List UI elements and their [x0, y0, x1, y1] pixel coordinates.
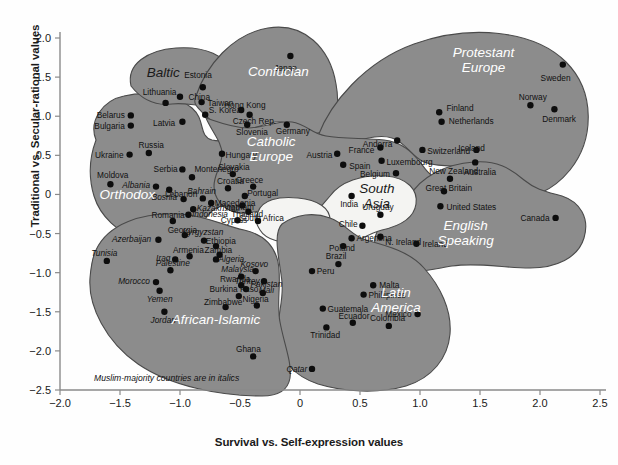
country-dot	[386, 323, 392, 329]
country-label: Great Britain	[426, 183, 473, 193]
country-label: Yemen	[147, 294, 173, 304]
cultural-map-chart: 2.01.51.00.50−0.5−1.0−1.5−2.0−2.5−2.0−1.…	[0, 0, 618, 465]
country-label: Argentina	[356, 233, 392, 243]
country-label: South Africa	[239, 213, 284, 223]
country-label: Azerbaijan	[111, 234, 152, 244]
country-label: Bulgaria	[94, 121, 125, 131]
x-tick-label: −2.0	[49, 397, 71, 409]
country-label: Peru	[317, 266, 335, 276]
country-label: Lithuania	[143, 87, 177, 97]
country-label: Serbia	[154, 164, 178, 174]
country-label: Latvia	[153, 118, 176, 128]
country-label: Finland	[446, 103, 474, 113]
country-label: Belarus	[97, 110, 125, 120]
country-label: Nigeria	[242, 294, 269, 304]
country-label: Bahrain	[187, 186, 216, 196]
x-tick-label: −1.5	[109, 397, 131, 409]
country-dot	[177, 94, 183, 100]
country-label: Morocco	[118, 276, 150, 286]
country-label: France	[349, 145, 375, 155]
country-dot	[377, 212, 383, 218]
country-dot	[155, 237, 161, 243]
x-axis-title: Survival vs. Self-expression values	[0, 436, 618, 448]
country-label: Slovakia	[218, 162, 250, 172]
y-tick-label: −2.5	[29, 384, 51, 396]
country-label: Belgium	[360, 169, 390, 179]
country-label: Russia	[139, 140, 165, 150]
x-tick-label: −0.5	[229, 397, 251, 409]
country-dot	[393, 170, 399, 176]
country-dot	[146, 150, 152, 156]
country-label: Ghana	[236, 344, 261, 354]
region-label: Baltic	[147, 65, 180, 80]
country-label: Moldova	[97, 170, 129, 180]
y-tick-label: −2.0	[29, 345, 51, 357]
country-label: Austria	[307, 150, 333, 160]
country-label: Netherlands	[449, 116, 494, 126]
country-label: New Zealand	[429, 166, 478, 176]
scatter-plot-svg: 2.01.51.00.50−0.5−1.0−1.5−2.0−2.5−2.0−1.…	[0, 0, 618, 465]
country-dot	[370, 282, 376, 288]
country-label: Romania	[151, 210, 185, 220]
y-tick-label: 0	[45, 188, 51, 200]
country-label: Palestine	[156, 258, 191, 268]
x-tick-label: −1.0	[169, 397, 191, 409]
country-dot	[340, 162, 346, 168]
country-dot	[320, 305, 326, 311]
country-dot	[309, 366, 315, 372]
country-dot	[447, 176, 453, 182]
country-dot	[551, 106, 557, 112]
country-dot	[472, 159, 478, 165]
region-label: EnglishSpeaking	[437, 218, 494, 248]
country-dot	[394, 137, 400, 143]
country-label: Malaysia	[221, 264, 254, 274]
country-dot	[185, 212, 191, 218]
country-dot	[156, 288, 162, 294]
country-dot	[348, 235, 354, 241]
x-tick-label: 0	[297, 397, 303, 409]
country-label: Luxembourg	[386, 157, 433, 167]
y-axis-title: Traditional vs. Secular-rational values	[29, 6, 41, 246]
country-label: Zimbabwe	[204, 297, 243, 307]
x-tick-label: 1.0	[412, 397, 427, 409]
country-dot	[334, 151, 340, 157]
country-label: Greece	[236, 175, 264, 185]
country-dot	[128, 122, 134, 128]
country-dot	[438, 119, 444, 125]
country-label: Portugal	[247, 188, 278, 198]
y-tick-label: −1.0	[29, 267, 51, 279]
country-dot	[360, 291, 366, 297]
italics-note: Muslim-majority countries are in italics	[94, 373, 240, 383]
country-label: Ukraine	[95, 150, 124, 160]
country-dot	[219, 151, 225, 157]
country-label: United States	[446, 202, 496, 212]
region-label: CatholicEurope	[247, 134, 296, 164]
country-dot	[126, 151, 132, 157]
country-dot	[378, 158, 384, 164]
country-label: Brazil	[326, 251, 347, 261]
country-dot	[179, 166, 185, 172]
region-label: SouthAsia	[359, 181, 394, 211]
country-label: Trinidad	[310, 330, 340, 340]
country-dot	[179, 119, 185, 125]
y-tick-label: −1.5	[29, 306, 51, 318]
region-label: African-Islamic	[171, 312, 261, 327]
country-label: Hong Kong	[224, 100, 266, 110]
country-label: Canada	[521, 213, 550, 223]
country-dot	[200, 84, 206, 90]
country-dot	[419, 147, 425, 153]
region-label: Orthodox	[99, 187, 156, 202]
country-dot	[104, 258, 110, 264]
country-label: Iceland	[458, 143, 485, 153]
country-label: Armenia	[173, 245, 204, 255]
country-dot	[335, 261, 341, 267]
x-tick-label: 2.5	[592, 397, 607, 409]
country-dot	[162, 100, 168, 106]
country-dot	[560, 61, 566, 67]
country-dot	[436, 109, 442, 115]
country-label: Czech Rep.	[233, 116, 276, 126]
x-tick-label: 2.0	[532, 397, 547, 409]
country-label: Chile	[339, 219, 358, 229]
country-dot	[287, 53, 293, 59]
country-label: Denmark	[542, 114, 577, 124]
